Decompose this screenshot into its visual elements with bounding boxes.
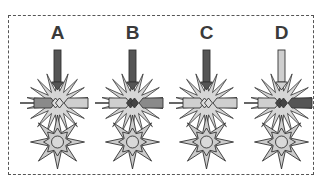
panel-d: D (244, 0, 319, 179)
right-bar-icon (213, 98, 237, 108)
right-bar-icon (139, 98, 163, 108)
panel-a: A (20, 0, 95, 179)
bottom-star-icon (106, 115, 160, 169)
bottom-star-icon (255, 115, 309, 169)
top-arrow-icon (127, 50, 139, 90)
left-bar-icon (20, 98, 55, 108)
top-arrow-icon (276, 50, 288, 90)
right-bar-icon (64, 98, 88, 108)
panel-b: B (95, 0, 170, 179)
bottom-star-icon (180, 115, 234, 169)
right-bar-icon (288, 98, 312, 108)
left-bar-icon (244, 98, 279, 108)
left-bar-icon (95, 98, 130, 108)
top-arrow-icon (52, 50, 64, 90)
panel-c: C (169, 0, 244, 179)
left-bar-icon (169, 98, 204, 108)
bottom-star-icon (31, 115, 85, 169)
top-arrow-icon (201, 50, 213, 90)
